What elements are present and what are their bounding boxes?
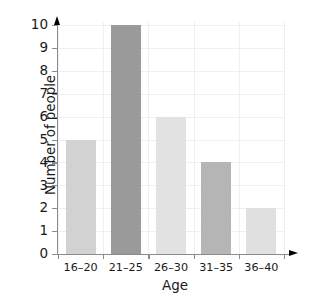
y-tick-label: 2 xyxy=(8,201,48,215)
y-axis-arrow-icon xyxy=(54,16,60,25)
y-tick-mark xyxy=(52,162,57,163)
x-tick-mark xyxy=(239,254,240,259)
gridline-horizontal xyxy=(58,25,284,26)
bar xyxy=(111,25,141,254)
gridline-vertical xyxy=(194,22,195,254)
y-tick-label: 6 xyxy=(8,110,48,124)
y-tick-mark xyxy=(52,94,57,95)
y-tick-mark xyxy=(52,117,57,118)
y-tick-label: 0 xyxy=(8,247,48,261)
y-tick-mark xyxy=(52,25,57,26)
gridline-vertical xyxy=(103,22,104,254)
x-tick-mark xyxy=(58,254,59,259)
bar-chart: Number of people Age 012345678910 16–202… xyxy=(0,0,309,303)
gridline-horizontal xyxy=(58,71,284,72)
y-tick-mark xyxy=(52,231,57,232)
y-tick-mark xyxy=(52,71,57,72)
gridline-horizontal xyxy=(58,94,284,95)
y-tick-mark xyxy=(52,185,57,186)
bar xyxy=(156,117,186,254)
y-tick-label: 1 xyxy=(8,224,48,238)
gridline-horizontal xyxy=(58,48,284,49)
x-tick-mark xyxy=(194,254,195,259)
y-tick-label: 10 xyxy=(8,18,48,32)
gridline-vertical xyxy=(284,22,285,254)
y-tick-mark xyxy=(52,48,57,49)
gridline-vertical xyxy=(239,22,240,254)
y-tick-mark xyxy=(52,208,57,209)
y-tick-label: 9 xyxy=(8,41,48,55)
x-axis-title: Age xyxy=(60,277,290,293)
x-tick-mark xyxy=(103,254,104,259)
y-axis-line xyxy=(57,25,58,255)
gridline-vertical xyxy=(148,22,149,254)
bar xyxy=(66,140,96,255)
x-axis-arrow-icon xyxy=(289,250,298,256)
y-tick-label: 3 xyxy=(8,179,48,193)
x-tick-label: 36–40 xyxy=(231,262,291,274)
x-tick-mark xyxy=(284,254,285,259)
y-tick-label: 7 xyxy=(8,87,48,101)
y-tick-label: 8 xyxy=(8,64,48,78)
x-tick-mark xyxy=(148,254,149,259)
y-tick-label: 4 xyxy=(8,156,48,170)
bar xyxy=(201,162,231,254)
bar xyxy=(246,208,276,254)
y-tick-label: 5 xyxy=(8,133,48,147)
y-tick-mark xyxy=(52,140,57,141)
y-tick-mark xyxy=(52,254,57,255)
